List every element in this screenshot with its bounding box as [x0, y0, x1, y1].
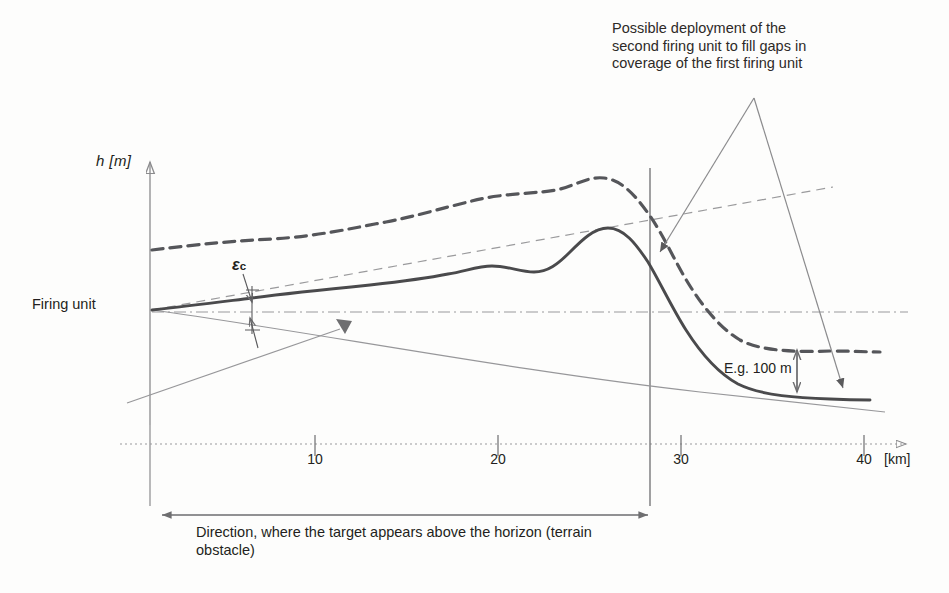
x-tick-label-40: 40 — [856, 451, 872, 467]
leader-line-left — [660, 98, 754, 252]
coverage-diagram-svg — [0, 0, 949, 593]
epsilon-symbol: ε — [232, 256, 240, 273]
lower-left-rising-line — [127, 329, 340, 403]
diagram-canvas: Possible deployment of the second firing… — [0, 0, 949, 593]
leader-line-right — [754, 98, 843, 388]
x-axis-ticks — [315, 435, 864, 456]
direction-caption: Direction, where the target appears abov… — [196, 524, 626, 559]
thin-rising-sight-line — [152, 187, 833, 310]
height-example-label: E.g. 100 m — [724, 360, 792, 377]
deployment-annotation-text: Possible deployment of the second firing… — [612, 20, 912, 73]
y-axis-label: h [m] — [96, 152, 131, 170]
epsilon-c-label: εc — [232, 255, 246, 275]
gap-arrowhead-icon — [336, 319, 352, 334]
x-tick-label-10: 10 — [307, 451, 323, 467]
x-tick-label-30: 30 — [673, 451, 689, 467]
epsilon-subscript: c — [240, 260, 246, 272]
x-tick-label-20: 20 — [490, 451, 506, 467]
firing-unit-label: Firing unit — [32, 296, 96, 314]
epsilon-angle-arrow — [243, 274, 260, 348]
x-axis-unit-label: [km] — [884, 451, 910, 468]
